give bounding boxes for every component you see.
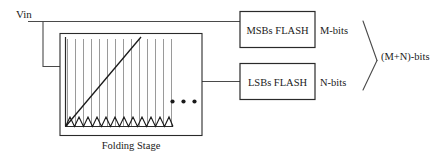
- m-bits-label: M-bits: [320, 25, 348, 36]
- combined-output-label: (M+N)-bits: [381, 51, 430, 63]
- wire-vin-to-folding-stage: [43, 22, 60, 67]
- folding-stage-caption: Folding Stage: [102, 140, 161, 151]
- diagram-canvas: Vin MSBs FLASH LSBs FLASH M-bits N-bits …: [0, 0, 442, 159]
- n-bits-label: N-bits: [320, 77, 346, 88]
- vin-label: Vin: [16, 8, 32, 20]
- diagonal-ramp-line: [66, 37, 141, 126]
- folding-waveform: [65, 37, 173, 127]
- ellipsis-dots: [170, 99, 196, 103]
- msbs-flash-label: MSBs FLASH: [246, 25, 309, 36]
- comb-lines: [68, 39, 172, 126]
- lsbs-flash-label: LSBs FLASH: [248, 77, 308, 88]
- folding-adc-diagram: Vin MSBs FLASH LSBs FLASH M-bits N-bits …: [0, 0, 442, 159]
- folded-sawtooth-curve: [66, 117, 174, 127]
- output-brace: [363, 21, 377, 90]
